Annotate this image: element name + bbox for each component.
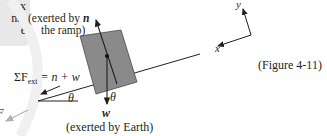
figure-reference: (Figure 4-11) xyxy=(258,58,322,73)
block xyxy=(80,30,137,94)
normal-force-label: (exerted by n⃗ the ramp) xyxy=(28,12,98,36)
x-axis-arrow xyxy=(218,35,251,46)
net-force-equation: ΣFext = n + w xyxy=(14,70,80,86)
normal-force-desc-line1: (exerted by xyxy=(28,12,80,24)
x-axis-label: x xyxy=(215,42,220,54)
normal-force-symbol: n⃗ xyxy=(83,12,98,24)
y-axis-label: y xyxy=(236,0,241,10)
normal-force-desc-line2: the ramp) xyxy=(41,24,85,36)
weight-symbol: w⃗ xyxy=(102,106,119,121)
ramp-angle-label: θ xyxy=(68,91,74,106)
net-force-arrow xyxy=(41,86,60,94)
y-axis-arrow xyxy=(243,9,251,35)
weight-desc: (exerted by Earth) xyxy=(66,120,153,135)
center-of-mass-dot xyxy=(105,54,109,58)
clipped-vector-label: F xyxy=(0,106,4,121)
vector-angle-label: θ xyxy=(110,90,116,105)
